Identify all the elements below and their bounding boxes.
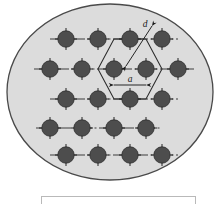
atom-dot bbox=[58, 91, 74, 107]
atom-dot bbox=[154, 147, 170, 163]
atom-dot bbox=[154, 91, 170, 107]
atom-dot bbox=[90, 147, 106, 163]
atom-dot bbox=[42, 61, 58, 77]
atom-dot bbox=[106, 120, 122, 136]
atom-dot bbox=[138, 120, 154, 136]
atom-dot bbox=[122, 147, 138, 163]
atom-dot bbox=[138, 61, 154, 77]
atom-dot bbox=[58, 147, 74, 163]
dimension-a-label: a bbox=[128, 74, 133, 84]
atom-dot bbox=[170, 61, 186, 77]
atom-dot bbox=[122, 31, 138, 47]
figure-container: d a bbox=[0, 0, 223, 204]
atom-dot bbox=[42, 120, 58, 136]
atom-dot bbox=[154, 31, 170, 47]
caption-box bbox=[42, 197, 196, 205]
atom-dot bbox=[122, 91, 138, 107]
atom-dot bbox=[58, 31, 74, 47]
atom-dot bbox=[90, 31, 106, 47]
atom-dot bbox=[106, 61, 122, 77]
atom-dot bbox=[74, 61, 90, 77]
lattice-diagram-svg: d a bbox=[0, 0, 223, 204]
dimension-d-label: d bbox=[143, 19, 148, 29]
atom-dot bbox=[74, 120, 90, 136]
atom-dot bbox=[90, 91, 106, 107]
